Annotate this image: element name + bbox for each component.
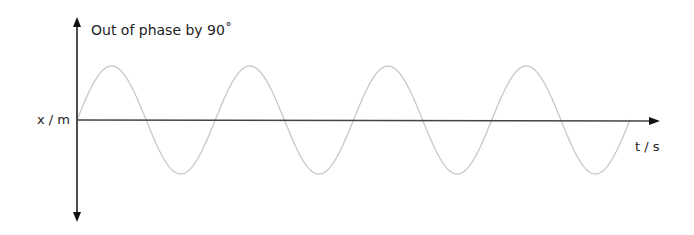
y-axis-label: x / m	[37, 113, 70, 126]
x-axis	[77, 117, 660, 125]
diagram-title: Out of phase by 90˚	[91, 23, 232, 37]
arrow-down-icon	[73, 212, 81, 222]
arrow-right-icon	[649, 117, 660, 125]
x-axis-label: t / s	[635, 140, 660, 153]
arrow-up-icon	[73, 17, 81, 27]
